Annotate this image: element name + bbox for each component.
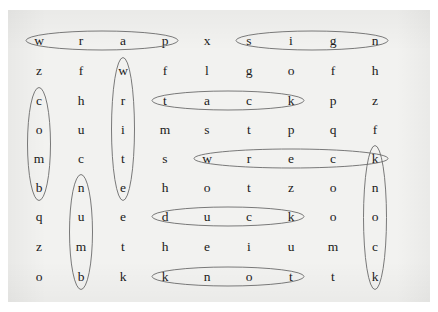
grid-cell[interactable]: n: [362, 26, 388, 55]
grid-cell[interactable]: o: [26, 115, 52, 144]
grid-cell[interactable]: z: [278, 173, 304, 202]
grid-cell[interactable]: u: [68, 115, 94, 144]
grid-cell[interactable]: k: [278, 86, 304, 115]
grid-cell[interactable]: r: [68, 26, 94, 55]
grid-row: wrapxsign: [8, 26, 430, 55]
grid-cell[interactable]: w: [26, 26, 52, 55]
grid-row: zfwflgofh: [8, 56, 430, 85]
grid-cell[interactable]: m: [152, 115, 178, 144]
grid-cell[interactable]: e: [194, 232, 220, 261]
grid-cell[interactable]: s: [236, 26, 262, 55]
grid-cell[interactable]: e: [278, 144, 304, 173]
grid-cell[interactable]: a: [110, 26, 136, 55]
puzzle-paper: wrapxsignzfwflgofhchrtackpzouimstpqfmcts…: [8, 10, 430, 302]
grid-cell[interactable]: t: [320, 262, 346, 291]
grid-cell[interactable]: s: [194, 115, 220, 144]
grid-cell[interactable]: t: [236, 115, 262, 144]
grid-cell[interactable]: i: [236, 232, 262, 261]
grid-cell[interactable]: r: [110, 86, 136, 115]
grid-cell[interactable]: o: [320, 173, 346, 202]
grid-cell[interactable]: k: [278, 202, 304, 231]
grid-cell[interactable]: p: [152, 26, 178, 55]
grid-cell[interactable]: i: [110, 115, 136, 144]
grid-cell[interactable]: f: [362, 115, 388, 144]
grid-cell[interactable]: r: [236, 144, 262, 173]
grid-cell[interactable]: f: [68, 56, 94, 85]
letter-grid: wrapxsignzfwflgofhchrtackpzouimstpqfmcts…: [8, 10, 430, 302]
grid-cell[interactable]: o: [278, 56, 304, 85]
grid-cell[interactable]: w: [110, 56, 136, 85]
grid-cell[interactable]: o: [362, 202, 388, 231]
grid-cell[interactable]: c: [68, 144, 94, 173]
grid-row: queduckoo: [8, 202, 430, 231]
grid-cell[interactable]: b: [26, 173, 52, 202]
grid-cell[interactable]: t: [110, 232, 136, 261]
grid-cell[interactable]: s: [152, 144, 178, 173]
grid-cell[interactable]: w: [194, 144, 220, 173]
grid-row: ouimstpqf: [8, 115, 430, 144]
grid-cell[interactable]: i: [278, 26, 304, 55]
grid-row: mctswreck: [8, 144, 430, 173]
grid-cell[interactable]: c: [362, 232, 388, 261]
grid-cell[interactable]: o: [26, 262, 52, 291]
grid-cell[interactable]: m: [26, 144, 52, 173]
grid-cell[interactable]: q: [26, 202, 52, 231]
grid-cell[interactable]: n: [68, 173, 94, 202]
grid-cell[interactable]: t: [110, 144, 136, 173]
grid-cell[interactable]: b: [68, 262, 94, 291]
grid-cell[interactable]: a: [194, 86, 220, 115]
grid-cell[interactable]: n: [194, 262, 220, 291]
grid-row: obkknottk: [8, 262, 430, 291]
grid-cell[interactable]: c: [236, 202, 262, 231]
grid-cell[interactable]: k: [362, 144, 388, 173]
word-search-screenshot: wrapxsignzfwflgofhchrtackpzouimstpqfmcts…: [0, 0, 438, 312]
grid-cell[interactable]: k: [152, 262, 178, 291]
grid-cell[interactable]: h: [362, 56, 388, 85]
grid-row: chrtackpz: [8, 86, 430, 115]
grid-cell[interactable]: f: [320, 56, 346, 85]
grid-cell[interactable]: o: [194, 173, 220, 202]
grid-cell[interactable]: t: [236, 173, 262, 202]
grid-cell[interactable]: x: [194, 26, 220, 55]
grid-cell[interactable]: h: [152, 232, 178, 261]
grid-cell[interactable]: u: [278, 232, 304, 261]
grid-cell[interactable]: p: [278, 115, 304, 144]
grid-cell[interactable]: o: [320, 202, 346, 231]
grid-cell[interactable]: u: [194, 202, 220, 231]
grid-cell[interactable]: c: [320, 144, 346, 173]
grid-cell[interactable]: h: [68, 86, 94, 115]
grid-cell[interactable]: g: [236, 56, 262, 85]
grid-cell[interactable]: z: [26, 56, 52, 85]
grid-cell[interactable]: z: [362, 86, 388, 115]
grid-cell[interactable]: f: [152, 56, 178, 85]
grid-cell[interactable]: t: [152, 86, 178, 115]
grid-cell[interactable]: d: [152, 202, 178, 231]
grid-cell[interactable]: g: [320, 26, 346, 55]
grid-cell[interactable]: o: [236, 262, 262, 291]
grid-cell[interactable]: u: [68, 202, 94, 231]
grid-cell[interactable]: z: [26, 232, 52, 261]
grid-cell[interactable]: k: [110, 262, 136, 291]
grid-cell[interactable]: p: [320, 86, 346, 115]
grid-cell[interactable]: t: [278, 262, 304, 291]
grid-row: zmtheiumc: [8, 232, 430, 261]
grid-cell[interactable]: m: [68, 232, 94, 261]
grid-cell[interactable]: h: [152, 173, 178, 202]
grid-cell[interactable]: c: [236, 86, 262, 115]
grid-cell[interactable]: e: [110, 202, 136, 231]
grid-cell[interactable]: m: [320, 232, 346, 261]
grid-cell[interactable]: k: [362, 262, 388, 291]
grid-cell[interactable]: e: [110, 173, 136, 202]
grid-cell[interactable]: c: [26, 86, 52, 115]
grid-cell[interactable]: l: [194, 56, 220, 85]
grid-cell[interactable]: q: [320, 115, 346, 144]
grid-row: bnehotzon: [8, 173, 430, 202]
grid-cell[interactable]: n: [362, 173, 388, 202]
